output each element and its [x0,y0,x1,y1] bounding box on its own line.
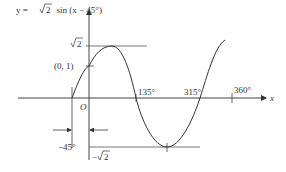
min-label-prefix: − [92,152,97,162]
y-intercept-label: (0, 1) [54,61,74,71]
x-axis-label: x [269,93,274,103]
title-sqrt-arg: 2 [46,5,51,15]
min-label: 2 [104,152,109,162]
max-label: 2 [77,39,82,49]
neg45-label: −45° [58,142,76,152]
label-315: 315° [184,87,202,97]
label-360: 360° [234,85,252,95]
graph-canvas: y = 2 sin (x − 45°) x O 2 − 2 (0, 1) −45… [0,0,286,172]
title-prefix: y = [16,5,28,15]
title-suffix: sin (x − 45°) [52,5,102,15]
origin-label: O [80,102,87,112]
label-135: 135° [138,87,156,97]
